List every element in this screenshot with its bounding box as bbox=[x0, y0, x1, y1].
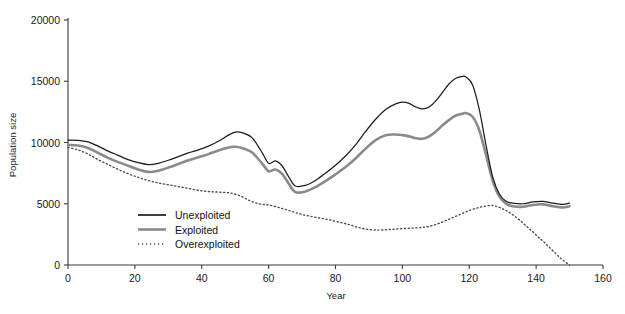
y-tick-label: 5000 bbox=[37, 198, 61, 210]
series-line-exploited bbox=[68, 113, 570, 208]
x-tick-label: 0 bbox=[65, 272, 71, 284]
x-tick-label: 40 bbox=[196, 272, 208, 284]
legend: UnexploitedExploitedOverexploited bbox=[138, 209, 240, 250]
x-tick-label: 80 bbox=[330, 272, 342, 284]
x-axis: 020406080100120140160 bbox=[65, 265, 612, 284]
legend-label: Unexploited bbox=[175, 209, 231, 221]
y-tick-label: 10000 bbox=[31, 137, 60, 149]
series-lines bbox=[68, 76, 570, 265]
series-line-overexploited bbox=[68, 147, 570, 265]
x-tick-label: 160 bbox=[594, 272, 612, 284]
legend-label: Exploited bbox=[175, 224, 218, 236]
y-tick-label: 15000 bbox=[31, 75, 60, 87]
y-tick-label: 20000 bbox=[31, 14, 60, 26]
y-axis-title: Population size bbox=[7, 113, 18, 177]
population-size-line-chart: 05000100001500020000 0204060801001201401… bbox=[0, 0, 625, 314]
x-tick-label: 140 bbox=[527, 272, 545, 284]
x-axis-title: Year bbox=[326, 290, 345, 301]
x-tick-label: 120 bbox=[460, 272, 478, 284]
x-tick-label: 100 bbox=[394, 272, 412, 284]
y-axis: 05000100001500020000 bbox=[31, 14, 68, 271]
x-tick-label: 60 bbox=[263, 272, 275, 284]
chart-canvas: 05000100001500020000 0204060801001201401… bbox=[0, 0, 625, 314]
y-tick-label: 0 bbox=[54, 259, 60, 271]
legend-label: Overexploited bbox=[175, 238, 240, 250]
x-tick-label: 20 bbox=[129, 272, 141, 284]
